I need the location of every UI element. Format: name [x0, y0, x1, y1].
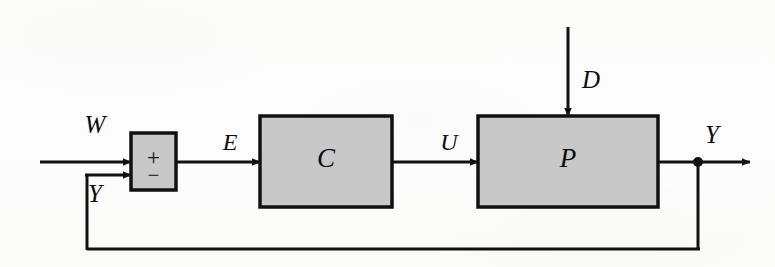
signal-label-y-feedback: Y [88, 180, 105, 207]
minus-sign-label: − [148, 163, 160, 187]
output-takeoff-node [693, 157, 703, 167]
block-diagram-figure: + − C P W E U D Y Y [0, 0, 775, 267]
controller-block-label: C [317, 143, 336, 173]
signal-label-u: U [440, 129, 459, 155]
signal-label-e: E [222, 129, 238, 155]
signal-label-d: D [581, 66, 600, 93]
signal-label-y-output: Y [705, 121, 722, 148]
signal-label-w: W [85, 111, 108, 138]
block-diagram-canvas: + − C P W E U D Y Y [0, 0, 775, 267]
plant-block-label: P [559, 143, 577, 173]
